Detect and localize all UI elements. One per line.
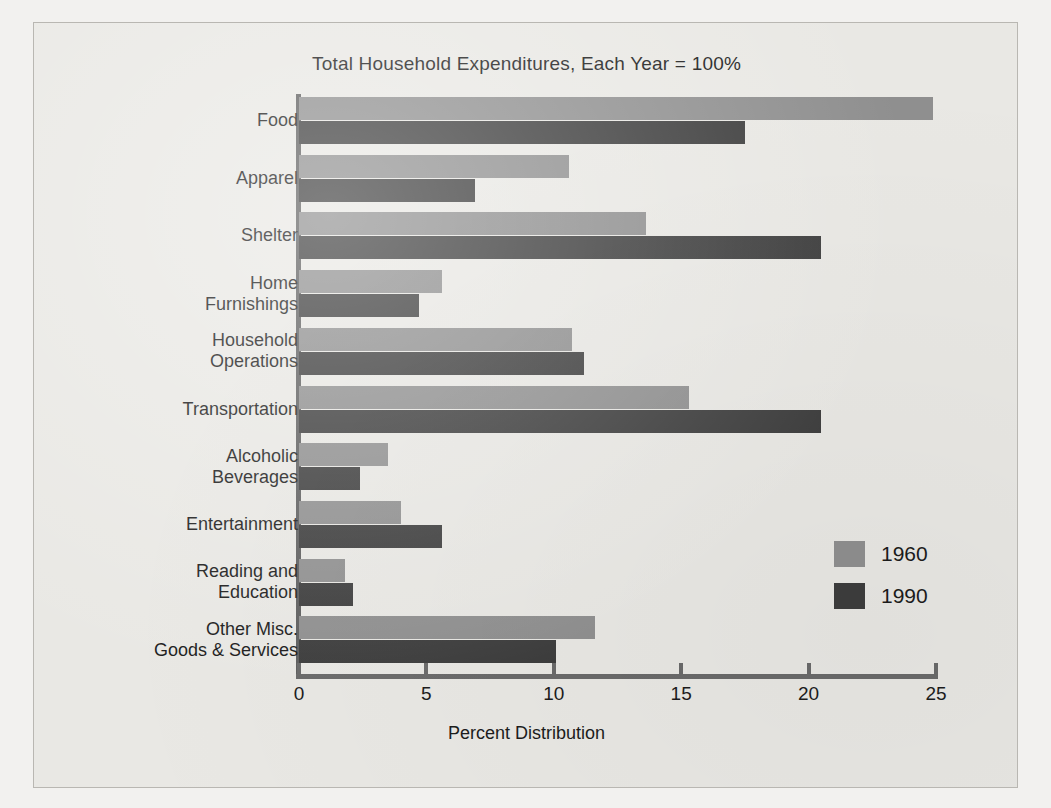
- category-label: Household Operations: [210, 330, 298, 372]
- category-label: Reading and Education: [196, 561, 298, 603]
- bar-1990-household-operations: [299, 352, 584, 375]
- x-axis-title: Percent Distribution: [34, 723, 1019, 744]
- bar-1960-alcoholic-beverages: [299, 443, 388, 466]
- legend-item: 1990: [834, 583, 928, 609]
- bar-1960-entertainment: [299, 501, 401, 524]
- x-tick: [552, 663, 556, 675]
- page-background: Total Household Expenditures, Each Year …: [0, 0, 1051, 808]
- bar-1960-household-operations: [299, 328, 572, 351]
- plot-area: FoodApparelShelterHome FurnishingsHouseh…: [34, 23, 1019, 789]
- bar-1990-food: [299, 121, 745, 144]
- category-label: Food: [257, 110, 298, 131]
- legend-swatch-icon: [834, 541, 865, 567]
- x-tick-label: 15: [651, 683, 711, 705]
- x-tick-label: 25: [906, 683, 966, 705]
- x-tick-label: 10: [524, 683, 584, 705]
- bar-1960-transportation: [299, 386, 689, 409]
- x-axis-line: [296, 674, 938, 679]
- bar-1990-entertainment: [299, 525, 442, 548]
- category-label: Other Misc. Goods & Services: [154, 619, 298, 661]
- legend-label: 1990: [881, 584, 928, 608]
- bar-1960-food: [299, 97, 933, 120]
- bar-1960-other-misc.-goods-&-services: [299, 616, 595, 639]
- category-label: Alcoholic Beverages: [212, 446, 298, 488]
- bar-1990-other-misc.-goods-&-services: [299, 640, 556, 663]
- bar-1960-shelter: [299, 212, 646, 235]
- x-tick-label: 20: [779, 683, 839, 705]
- bar-1990-alcoholic-beverages: [299, 467, 360, 490]
- x-tick: [297, 663, 301, 675]
- bar-1990-reading-and-education: [299, 583, 353, 606]
- bar-1990-shelter: [299, 236, 821, 259]
- category-label: Transportation: [183, 399, 298, 420]
- x-tick: [807, 663, 811, 675]
- bar-1960-home-furnishings: [299, 270, 442, 293]
- category-label: Entertainment: [186, 514, 298, 535]
- x-tick: [679, 663, 683, 675]
- x-tick: [934, 663, 938, 675]
- bar-1990-apparel: [299, 179, 475, 202]
- bar-1960-apparel: [299, 155, 569, 178]
- bar-1990-transportation: [299, 410, 821, 433]
- legend-swatch-icon: [834, 583, 865, 609]
- category-label: Home Furnishings: [205, 273, 298, 315]
- figure-plate: Total Household Expenditures, Each Year …: [33, 22, 1018, 788]
- x-tick-label: 0: [269, 683, 329, 705]
- category-label: Shelter: [241, 225, 298, 246]
- bar-1960-reading-and-education: [299, 559, 345, 582]
- category-label: Apparel: [236, 168, 298, 189]
- legend-label: 1960: [881, 542, 928, 566]
- chart-legend: 19601990: [834, 541, 928, 625]
- x-tick: [424, 663, 428, 675]
- x-tick-label: 5: [396, 683, 456, 705]
- legend-item: 1960: [834, 541, 928, 567]
- bar-1990-home-furnishings: [299, 294, 419, 317]
